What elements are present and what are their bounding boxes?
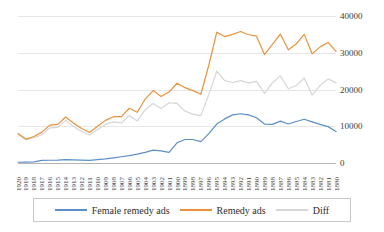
x-axis-tick-label: 1902 [159,177,166,191]
legend-item[interactable]: Diff [276,205,329,216]
x-axis-tick-label: 1887 [278,177,285,191]
series-line [18,31,336,139]
legend-line-swatch [180,209,212,211]
x-axis-tick-label: 1881 [326,177,333,191]
axis-baseline [18,163,336,164]
x-axis-tick-label: 1889 [262,177,269,191]
x-axis-tick-label: 1906 [127,177,134,191]
legend-item-label: Female remedy ads [92,205,170,216]
x-axis-tick-label: 1882 [318,177,325,191]
x-axis-tick-label: 1884 [302,177,309,191]
legend-line-swatch [55,209,87,211]
x-axis-tick-label: 1901 [167,177,174,191]
x-axis-tick-label: 1891 [246,177,253,191]
x-axis-tick-label: 1885 [294,177,301,191]
x-axis-tick-label: 1907 [119,177,126,191]
y-axis-tick-label: 20000 [340,86,363,95]
legend-item-label: Remedy ads [217,205,266,216]
y-axis-tick-label: 30000 [340,49,363,58]
x-axis-tick-label: 1888 [270,177,277,191]
x-axis: 1920191919181917191619151914191319121911… [18,165,336,193]
legend-item-label: Diff [313,205,329,216]
x-axis-tick-label: 1911 [87,177,94,191]
x-axis-tick-label: 1909 [103,177,110,191]
y-axis-tick-label: 0 [340,159,345,168]
line-chart: 400003000020000100000 192019191918191719… [0,0,384,232]
x-axis-tick-label: 1880 [334,177,341,191]
legend-item[interactable]: Remedy ads [180,205,266,216]
x-axis-tick-label: 1886 [286,177,293,191]
x-axis-tick-label: 1904 [143,177,150,191]
x-axis-tick-label: 1883 [310,177,317,191]
legend: Female remedy adsRemedy adsDiff [33,198,351,222]
y-axis: 400003000020000100000 [340,0,384,180]
x-axis-tick-label: 1905 [135,177,142,191]
x-axis-tick-label: 1890 [254,177,261,191]
y-axis-tick-label: 40000 [340,12,363,21]
y-axis-tick-label: 10000 [340,122,363,131]
series-line [18,71,336,140]
legend-line-swatch [276,209,308,211]
series-lines [18,16,336,163]
x-axis-tick-label: 1908 [111,177,118,191]
x-axis-tick-label: 1910 [95,177,102,191]
x-axis-tick-label: 1903 [151,177,158,191]
legend-item[interactable]: Female remedy ads [55,205,170,216]
plot-area [18,16,336,163]
